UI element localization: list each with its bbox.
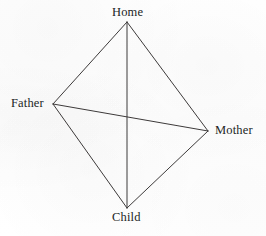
diagram-canvas: Home Father Mother Child (0, 0, 266, 236)
node-label-child: Child (112, 211, 141, 224)
edge-mother-child (127, 131, 208, 208)
relationship-diagram (0, 0, 266, 236)
node-label-father: Father (11, 97, 44, 110)
edge-home-mother (127, 22, 208, 131)
node-label-mother: Mother (215, 124, 253, 137)
edge-home-father (53, 22, 127, 104)
node-label-home: Home (112, 6, 143, 19)
diagram-edges (53, 22, 208, 208)
edge-father-mother (53, 104, 208, 131)
edge-father-child (53, 104, 127, 208)
